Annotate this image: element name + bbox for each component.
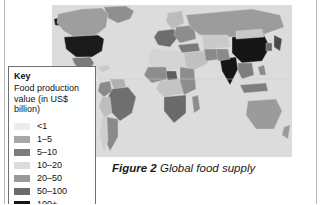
figure-page: Figure 2 Global food supply Key Food pro… (0, 0, 322, 204)
legend-item: 100+ (14, 198, 90, 205)
figure-caption: Figure 2 Global food supply (112, 161, 302, 175)
legend-item: 5–10 (14, 146, 90, 159)
legend-item-label: 10–20 (37, 160, 62, 170)
legend-swatch (14, 149, 30, 156)
legend-item: 50–100 (14, 185, 90, 198)
region-mongolia (236, 29, 264, 39)
legend-item: 10–20 (14, 159, 90, 172)
figure-label: Figure 2 (112, 162, 157, 174)
legend-swatch (14, 123, 30, 130)
legend-swatch (14, 175, 30, 182)
region-pakistan (216, 49, 230, 61)
legend-item-label: <1 (37, 121, 47, 131)
legend-item: 20–50 (14, 172, 90, 185)
legend-item: 1–5 (14, 133, 90, 146)
legend-subtitle: Food production value (in US$ billion) (14, 83, 90, 115)
legend-item: <1 (14, 120, 90, 133)
legend-swatch (14, 188, 30, 195)
page-rule-left (4, 0, 5, 204)
legend-item-label: 50–100 (37, 186, 67, 196)
legend-item-label: 5–10 (37, 147, 57, 157)
legend-item-label: 20–50 (37, 173, 62, 183)
region-indonesia (240, 83, 268, 93)
page-rule-right (316, 0, 317, 204)
legend-item-label: 100+ (37, 199, 57, 204)
legend-swatch (14, 201, 30, 205)
legend-title: Key (14, 71, 90, 82)
legend-item-list: <1 1–5 5–10 10–20 20–50 50–100 (14, 120, 90, 205)
region-korea (266, 43, 272, 51)
figure-caption-text: Global food supply (160, 162, 255, 174)
legend-swatch (14, 136, 30, 143)
legend-item-label: 1–5 (37, 134, 52, 144)
legend-swatch (14, 162, 30, 169)
region-central-asia (202, 35, 230, 49)
map-legend: Key Food production value (in US$ billio… (8, 66, 96, 204)
